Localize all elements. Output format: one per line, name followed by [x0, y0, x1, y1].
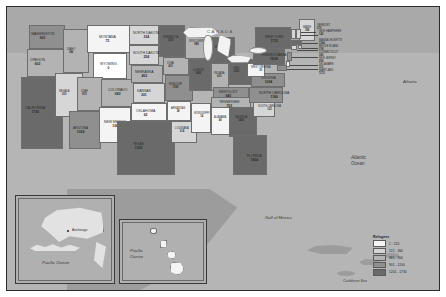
state-value: 1508: [261, 58, 287, 62]
state-value: 1604: [247, 159, 262, 163]
state-label-or: OREGON602: [30, 59, 45, 67]
atlantic-ocean-line1: Atlantic: [351, 155, 366, 161]
state-label-mt: MONTANA72: [99, 36, 116, 44]
state-label-in: INDIANA620: [214, 73, 225, 79]
state-label-ok: OKLAHOMA62: [136, 110, 155, 118]
state-value: 620: [214, 76, 225, 79]
lake-michigan: [203, 35, 213, 61]
state-value: 1108: [169, 87, 182, 90]
legend-row-2[interactable]: 361 - 900: [373, 254, 431, 261]
state-value: 1712: [265, 40, 283, 44]
state-value: 203: [59, 94, 69, 97]
state-label-ks: KANSAS301: [137, 90, 151, 98]
map-page: WASHINGTON901OREGON602CALIFORNIA1730NEVA…: [0, 0, 446, 297]
state-label-wi: WISCONSIN688: [189, 41, 204, 47]
gulf-of-mexico-label: Gulf of Mexico: [265, 215, 292, 220]
state-value: 214: [175, 131, 189, 134]
alaska-inset: Anchorage Pacific Ocean: [15, 195, 115, 284]
legend-row-4[interactable]: 1201 - 1730: [373, 269, 431, 276]
legend-rows: 1 - 120121 - 360361 - 900901 - 12001201 …: [373, 240, 431, 276]
state-label-az: ARIZONA1024: [73, 127, 88, 135]
state-value: 254: [133, 56, 160, 60]
state-value: 1186: [259, 96, 289, 100]
legend-row-0[interactable]: 1 - 120: [373, 240, 431, 247]
lake-ontario: [249, 47, 267, 54]
state-value: 0: [100, 67, 117, 71]
state-label-nv: NEVADA203: [59, 91, 69, 97]
state-label-ny: NEW YORK1712: [265, 36, 283, 44]
state-value: 901: [31, 37, 54, 41]
leader-line-md: [287, 69, 318, 70]
legend-swatch-1: [373, 248, 386, 254]
state-label-wv: WEST VIRGINIA30: [251, 67, 271, 73]
state-label-nd: NORTH DAKOTA334: [133, 32, 160, 40]
leader-line-nh: [301, 35, 318, 36]
legend-label-0: 1 - 120: [389, 242, 399, 246]
state-value: 1320: [233, 71, 240, 74]
caribbean-island-2: [337, 271, 355, 276]
atlantic-ocean-line2: Ocean: [351, 161, 366, 167]
state-value: 1730: [25, 111, 45, 115]
state-value: 72: [99, 40, 116, 44]
state-value: 46: [214, 120, 226, 123]
state-value: 1094: [261, 81, 276, 85]
legend-row-1[interactable]: 121 - 360: [373, 247, 431, 254]
state-nh[interactable]: [296, 29, 301, 39]
state-value: 452: [135, 75, 153, 79]
state-label-md: MARYLAND1172: [319, 70, 333, 76]
state-value: 386: [67, 52, 75, 55]
leader-line-nj: [292, 57, 318, 58]
legend-row-3[interactable]: 901 - 1200: [373, 262, 431, 269]
legend-label-2: 361 - 900: [389, 256, 403, 260]
state-value: 334: [133, 36, 160, 40]
state-value: 682: [108, 93, 127, 97]
state-label-ut: UTAH872: [81, 91, 88, 97]
state-label-wy: WYOMING0: [100, 63, 117, 71]
state-label-ga: GEORGIA1426: [235, 117, 247, 123]
state-value: 1172: [319, 73, 333, 76]
state-label-ar: ARKANSAS38: [171, 108, 185, 114]
state-label-al: ALABAMA46: [214, 117, 226, 123]
hawaii-inset: Pacific Ocean: [119, 219, 207, 284]
caribbean-sea-label: Caribbean Sea: [343, 279, 367, 283]
hawaii-pacific-line2: Ocean: [130, 254, 143, 260]
leader-line-ri: [302, 48, 318, 49]
map-legend: Refugees 1 - 120121 - 360361 - 900901 - …: [373, 235, 431, 276]
state-value: 1210: [163, 40, 178, 43]
state-value: 1402: [193, 73, 204, 76]
legend-swatch-3: [373, 262, 386, 268]
state-label-ms: MISSISSIPPI14: [194, 113, 209, 119]
hawaii-island-oahu: [160, 240, 167, 248]
hawaii-pacific-ocean-label: Pacific Ocean: [130, 248, 143, 259]
state-label-sc: SOUTH CAROLINA122: [258, 106, 281, 112]
state-label-ia: IOWA410: [167, 63, 174, 69]
state-tx[interactable]: [117, 121, 175, 175]
state-label-nh: NEW HAMPSHIRE142: [319, 31, 341, 37]
leader-line-ct: [297, 50, 318, 51]
legend-swatch-4: [373, 269, 386, 275]
state-value: 14: [194, 116, 209, 119]
state-label-il: ILLINOIS1402: [193, 70, 204, 76]
state-value: 62: [136, 114, 155, 118]
state-value: 38: [171, 111, 185, 114]
state-label-id: IDAHO386: [67, 49, 75, 55]
state-value: 1426: [235, 120, 247, 123]
state-value: 872: [81, 94, 88, 97]
state-label-tx: TEXAS1536: [133, 143, 144, 151]
state-md[interactable]: [277, 65, 287, 71]
state-value: 142: [319, 34, 341, 37]
state-label-oh: OHIO1320: [233, 68, 240, 74]
anchorage-label: Anchorage: [72, 229, 87, 233]
legend-label-1: 121 - 360: [389, 249, 403, 253]
legend-swatch-2: [373, 255, 386, 261]
state-value: 30: [251, 70, 271, 73]
state-value: 122: [258, 109, 281, 112]
state-label-wa: WASHINGTON901: [31, 33, 54, 41]
legend-swatch-0: [373, 240, 386, 246]
state-label-mn: MINNESOTA1210: [163, 37, 178, 43]
state-value: 1024: [73, 131, 88, 135]
hawaii-pacific-line1: Pacific: [130, 248, 143, 254]
state-value: 602: [30, 63, 45, 67]
state-value: 1536: [133, 147, 144, 151]
leader-line-de: [290, 65, 318, 66]
